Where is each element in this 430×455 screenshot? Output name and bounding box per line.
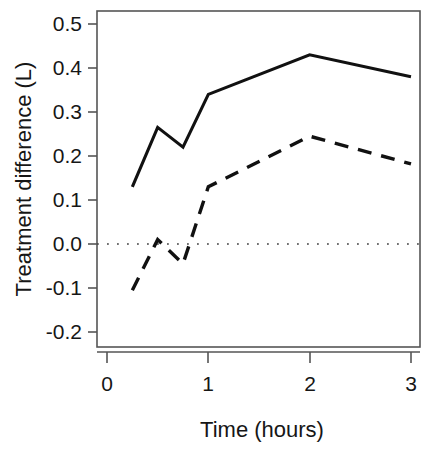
y-tick-label-7: -0.2: [46, 320, 82, 343]
y-axis-title: Treatment difference (L): [11, 62, 36, 297]
line-chart: 0.5 0.4 0.3 0.2 0.1 0.0 -0.1 -0.2 0 1 2 …: [0, 0, 430, 455]
x-axis-title: Time (hours): [200, 417, 324, 442]
x-tick-label-3: 3: [405, 372, 417, 395]
x-tick-label-1: 1: [202, 372, 214, 395]
x-tick-label-0: 0: [101, 372, 113, 395]
y-tick-label-4: 0.1: [53, 188, 82, 211]
y-tick-label-1: 0.4: [53, 56, 83, 79]
chart-figure: 0.5 0.4 0.3 0.2 0.1 0.0 -0.1 -0.2 0 1 2 …: [0, 0, 430, 455]
y-tick-label-2: 0.3: [53, 100, 82, 123]
x-tick-label-2: 2: [304, 372, 316, 395]
y-tick-label-3: 0.2: [53, 144, 82, 167]
y-tick-label-5: 0.0: [53, 232, 82, 255]
y-tick-label-6: -0.1: [46, 276, 82, 299]
y-tick-label-0: 0.5: [53, 12, 82, 35]
